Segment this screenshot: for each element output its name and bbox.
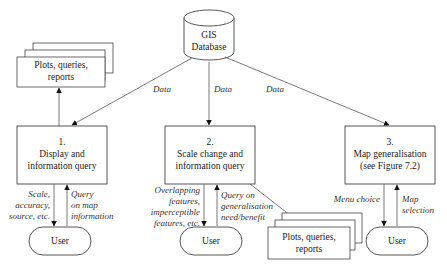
data-label-left: Data (153, 84, 171, 95)
plots-top-left-label: Plots, queries, reports (17, 59, 105, 83)
p3-down-label: Menu choice (320, 194, 380, 205)
plots-top-left-line2: reports (17, 71, 105, 83)
p2-up-line3: need/benefit (221, 212, 273, 223)
user-1-label: User (29, 235, 91, 247)
process-3-label: 3. Map generalisation (see Figure 7.2) (345, 136, 435, 172)
data-label-center: Data (214, 84, 232, 95)
process-3-number: 3. (345, 136, 435, 148)
p1-down-line3: source, etc. (0, 211, 50, 222)
process-2-line2: information query (165, 160, 255, 172)
process-1-label: 1. Display and information query (17, 136, 107, 172)
p1-up-line3: information (71, 211, 114, 222)
p3-up-line2: selection (402, 205, 434, 216)
p1-down-line1: Scale, (0, 189, 50, 200)
data-label-right: Data (266, 84, 284, 95)
p1-down-line2: accuracy, (0, 200, 50, 211)
p3-up-line1: Map (402, 194, 434, 205)
process-1-line2: information query (17, 160, 107, 172)
p1-down-label: Scale, accuracy, source, etc. (0, 189, 50, 222)
p2-down-line3: imperceptible (140, 207, 200, 218)
p2-down-label: Overlapping features, imperceptible feat… (140, 185, 200, 229)
process-1-number: 1. (17, 136, 107, 148)
p3-up-label: Map selection (402, 194, 434, 216)
p2-down-line2: features, (140, 196, 200, 207)
plots-bottom-line2: reports (268, 243, 350, 255)
p2-down-line4: features, etc. (140, 218, 200, 229)
p2-down-line1: Overlapping (140, 185, 200, 196)
p2-up-line2: generalisation (221, 201, 273, 212)
plots-bottom-line1: Plots, queries, (268, 231, 350, 243)
database-label-line1: GIS (184, 29, 234, 41)
database-label: GIS Database (184, 29, 234, 53)
process-3-line2: (see Figure 7.2) (345, 160, 435, 172)
plots-bottom-label: Plots, queries, reports (268, 231, 350, 255)
user-3-label: User (366, 235, 428, 247)
process-3-line1: Map generalisation (345, 148, 435, 160)
database-label-line2: Database (184, 41, 234, 53)
process-2-line1: Scale change and (165, 148, 255, 160)
process-1-line1: Display and (17, 148, 107, 160)
data-flow-right (225, 57, 389, 125)
p1-up-line1: Query (71, 189, 114, 200)
plots-top-left-line1: Plots, queries, (17, 59, 105, 71)
p3-down-line1: Menu choice (320, 194, 380, 205)
p2-up-line1: Query on (221, 190, 273, 201)
user-2-label: User (180, 235, 242, 247)
p2-up-label: Query on generalisation need/benefit (221, 190, 273, 223)
process-2-label: 2. Scale change and information query (165, 136, 255, 172)
p1-up-label: Query on map information (71, 189, 114, 222)
p1-up-line2: on map (71, 200, 114, 211)
process-2-number: 2. (165, 136, 255, 148)
